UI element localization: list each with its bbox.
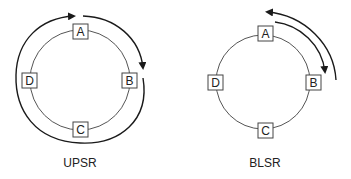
blsr-diagram: A B C D BLSR — [208, 12, 336, 170]
blsr-node-b-label: B — [309, 76, 317, 90]
upsr-node-b-label: B — [125, 74, 133, 88]
upsr-node-b: B — [122, 73, 137, 88]
upsr-ring — [30, 30, 130, 130]
upsr-node-a: A — [73, 24, 88, 39]
blsr-node-a: A — [258, 26, 273, 41]
blsr-node-a-label: A — [261, 27, 269, 41]
upsr-node-d-label: D — [25, 74, 34, 88]
ring-diagrams: A B C D UPSR A B C — [0, 0, 351, 179]
blsr-ring — [216, 35, 310, 129]
blsr-node-d: D — [208, 75, 223, 90]
upsr-node-d: D — [22, 73, 37, 88]
blsr-node-c: C — [258, 123, 273, 138]
blsr-node-c-label: C — [261, 124, 270, 138]
blsr-node-b: B — [306, 75, 321, 90]
upsr-node-a-label: A — [76, 25, 84, 39]
upsr-diagram: A B C D UPSR — [16, 16, 144, 170]
upsr-node-c-label: C — [76, 123, 85, 137]
blsr-forward-arrow — [275, 22, 325, 72]
blsr-node-d-label: D — [211, 76, 220, 90]
blsr-caption: BLSR — [249, 156, 281, 170]
upsr-node-c: C — [73, 122, 88, 137]
upsr-caption: UPSR — [63, 156, 97, 170]
